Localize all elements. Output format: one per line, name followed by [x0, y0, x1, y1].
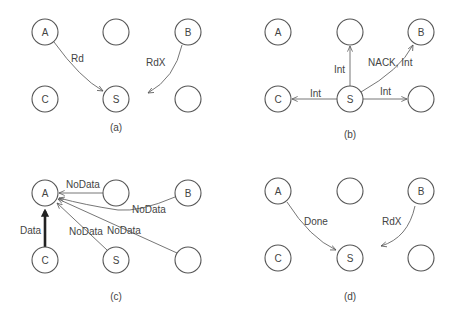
edge-label-rdx: RdX	[146, 57, 166, 68]
node-c: C	[265, 245, 291, 271]
edge-label-nodata-top: NoData	[66, 179, 100, 190]
node-a: A	[32, 180, 58, 206]
edge-label-rdx: RdX	[382, 216, 402, 227]
node-c: C	[32, 247, 58, 273]
panel-a: Rd RdX A B C S (a)	[32, 19, 201, 133]
edge-b-to-s-rdx	[148, 45, 182, 93]
node-b: B	[175, 180, 201, 206]
svg-text:A: A	[275, 27, 282, 38]
panel-b: Int NACK, Int Int Int A B C S (b)	[265, 19, 434, 140]
node-right	[175, 86, 201, 112]
svg-text:B: B	[185, 27, 192, 38]
svg-text:S: S	[113, 255, 120, 266]
edge-s-to-b-nack-int	[361, 45, 413, 92]
svg-text:A: A	[42, 27, 49, 38]
edge-label-data: Data	[20, 225, 42, 236]
node-top-mid	[337, 178, 363, 204]
edge-a-to-s-rd	[54, 42, 103, 91]
node-top-mid	[103, 19, 129, 45]
edge-label-nack-int: NACK, Int	[368, 57, 413, 68]
caption-d: (d)	[344, 291, 356, 302]
edge-label-nodata-b: NoData	[132, 204, 166, 215]
edge-label-done: Done	[304, 216, 328, 227]
svg-text:C: C	[274, 253, 281, 264]
node-c: C	[265, 86, 291, 112]
node-right	[408, 86, 434, 112]
caption-c: (c)	[110, 291, 122, 302]
svg-text:B: B	[185, 188, 192, 199]
svg-text:C: C	[41, 94, 48, 105]
edge-label-rd: Rd	[71, 53, 84, 64]
svg-text:B: B	[418, 27, 425, 38]
node-right	[408, 245, 434, 271]
svg-text:C: C	[274, 94, 281, 105]
protocol-diagram: Rd RdX A B C S (a) Int NACK, Int Int Int…	[0, 0, 458, 319]
svg-text:C: C	[41, 255, 48, 266]
svg-text:A: A	[42, 188, 49, 199]
node-s: S	[103, 86, 129, 112]
edge-label-int-top: Int	[334, 64, 345, 75]
node-right	[175, 247, 201, 273]
node-top-mid	[337, 19, 363, 45]
panel-c: Data NoData NoData NoData NoData A B C S…	[20, 179, 201, 302]
caption-b: (b)	[344, 129, 356, 140]
node-top-mid	[103, 180, 129, 206]
node-b: B	[408, 178, 434, 204]
edge-label-int-right: Int	[380, 86, 391, 97]
node-s: S	[337, 86, 363, 112]
edge-label-int-left: Int	[310, 88, 321, 99]
node-b: B	[175, 19, 201, 45]
node-b: B	[408, 19, 434, 45]
node-a: A	[265, 178, 291, 204]
panel-d: Done RdX A B C S (d)	[265, 178, 434, 302]
edge-label-nodata-right: NoData	[107, 225, 141, 236]
node-s: S	[103, 247, 129, 273]
node-a: A	[32, 19, 58, 45]
svg-text:S: S	[113, 94, 120, 105]
svg-text:B: B	[418, 186, 425, 197]
svg-text:S: S	[347, 94, 354, 105]
node-s: S	[337, 245, 363, 271]
svg-text:S: S	[347, 253, 354, 264]
node-a: A	[265, 19, 291, 45]
edge-label-nodata-s: NoData	[69, 226, 103, 237]
svg-text:A: A	[275, 186, 282, 197]
node-c: C	[32, 86, 58, 112]
caption-a: (a)	[110, 122, 122, 133]
